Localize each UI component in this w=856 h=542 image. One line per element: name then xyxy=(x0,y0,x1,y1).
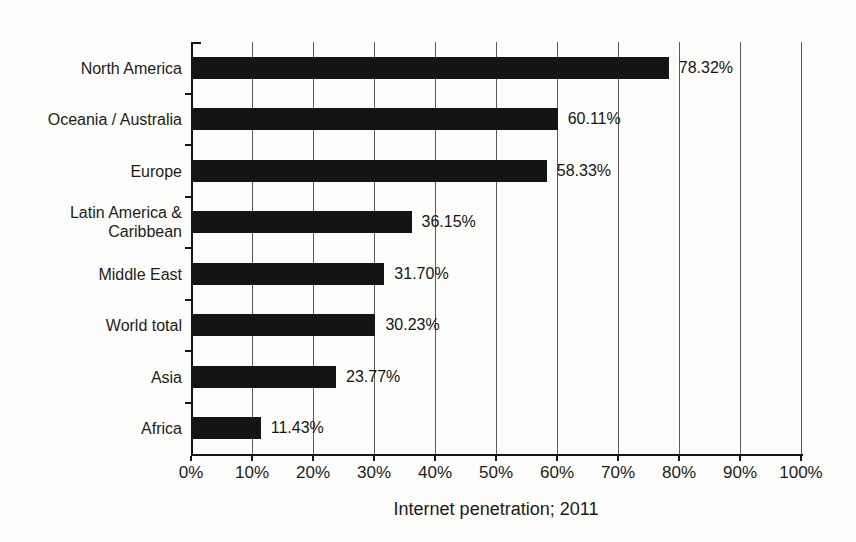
gridline xyxy=(740,42,741,454)
value-label: 23.77% xyxy=(346,368,400,386)
value-label: 60.11% xyxy=(568,110,621,128)
x-tick xyxy=(434,456,436,461)
category-label: Africa xyxy=(27,419,182,438)
x-tick xyxy=(190,456,192,461)
bar xyxy=(193,57,669,79)
gridline xyxy=(618,42,619,454)
value-label: 78.32% xyxy=(679,59,733,77)
gridline xyxy=(252,42,253,454)
bar xyxy=(193,108,558,130)
x-tick-label: 0% xyxy=(179,463,204,483)
value-label: 58.33% xyxy=(557,162,611,180)
y-axis-top-tick xyxy=(191,42,201,44)
x-tick-label: 10% xyxy=(235,463,269,483)
category-label: Europe xyxy=(27,161,182,180)
bar xyxy=(193,160,547,182)
category-label: Asia xyxy=(27,367,182,386)
value-label: 31.70% xyxy=(394,265,448,283)
x-tick-label: 100% xyxy=(779,463,822,483)
y-axis-line xyxy=(191,42,193,456)
gridline xyxy=(313,42,314,454)
x-tick-label: 70% xyxy=(601,463,635,483)
x-axis-line xyxy=(191,454,803,456)
x-tick xyxy=(739,456,741,461)
value-label: 36.15% xyxy=(422,213,476,231)
x-tick-label: 40% xyxy=(418,463,452,483)
value-label: 11.43% xyxy=(271,419,324,437)
x-tick-label: 80% xyxy=(662,463,696,483)
internet-penetration-bar-chart: North America78.32%Oceania / Australia60… xyxy=(0,0,856,542)
gridline xyxy=(557,42,558,454)
x-tick xyxy=(495,456,497,461)
x-tick-label: 60% xyxy=(540,463,574,483)
x-tick xyxy=(251,456,253,461)
x-tick xyxy=(556,456,558,461)
bar xyxy=(193,417,261,439)
gridline xyxy=(374,42,375,454)
x-axis-title: Internet penetration; 2011 xyxy=(191,499,801,520)
x-tick xyxy=(678,456,680,461)
gridline xyxy=(679,42,680,454)
category-label: Latin America & Caribbean xyxy=(27,203,182,241)
x-tick xyxy=(312,456,314,461)
gridline xyxy=(435,42,436,454)
value-label: 30.23% xyxy=(385,316,439,334)
bar xyxy=(193,314,375,336)
category-label: North America xyxy=(27,58,182,77)
bar xyxy=(193,366,336,388)
x-tick xyxy=(617,456,619,461)
category-label: Oceania / Australia xyxy=(27,110,182,129)
x-tick-label: 90% xyxy=(723,463,757,483)
category-label: World total xyxy=(27,316,182,335)
x-tick-label: 30% xyxy=(357,463,391,483)
category-label: Middle East xyxy=(27,264,182,283)
gridline xyxy=(496,42,497,454)
x-tick xyxy=(373,456,375,461)
gridline xyxy=(801,42,802,454)
x-tick-label: 50% xyxy=(479,463,513,483)
x-tick xyxy=(800,456,802,461)
bar xyxy=(193,263,384,285)
x-tick-label: 20% xyxy=(296,463,330,483)
bar xyxy=(193,211,412,233)
